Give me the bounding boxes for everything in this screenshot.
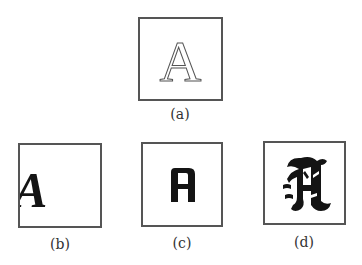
letter-a-blackletter-glyph [281, 155, 333, 213]
letter-a-block-glyph [171, 168, 195, 202]
caption-c: (c) [152, 235, 212, 251]
panel-c-block-letter [141, 142, 223, 227]
caption-b: (b) [30, 236, 90, 252]
panel-a-outlined-serif: A [138, 17, 223, 101]
panel-b-bold-italic: A [18, 143, 102, 228]
caption-a: (a) [150, 106, 210, 122]
caption-d: (d) [274, 234, 334, 250]
letter-a-outlined-glyph: A [140, 33, 221, 91]
panel-d-blackletter [263, 141, 346, 225]
letter-a-bold-italic-glyph: A [18, 165, 47, 215]
